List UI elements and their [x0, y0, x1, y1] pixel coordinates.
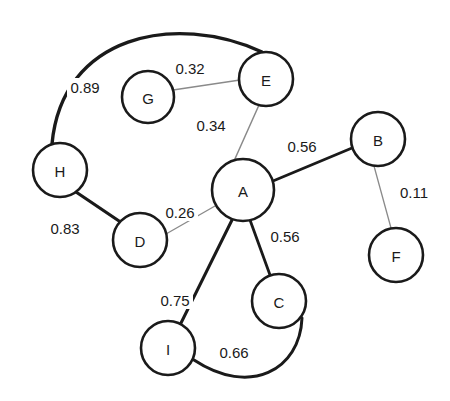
nodes-layer: ABCDEFGHI [33, 52, 423, 375]
edge-weight-label-a-c: 0.56 [270, 228, 299, 245]
node-label-c: C [274, 294, 285, 311]
edge-weight-label-a-i: 0.75 [160, 292, 189, 309]
graph-node-a: A [212, 159, 274, 221]
graph-edge-e-a [234, 105, 259, 161]
node-label-g: G [142, 90, 154, 107]
edge-weight-label-e-a: 0.34 [196, 117, 225, 134]
edge-weight-label-i-c: 0.66 [219, 344, 248, 361]
graph-node-f: F [369, 228, 423, 282]
graph-node-i: I [141, 321, 195, 375]
edge-weight-label-h-e: 0.89 [70, 79, 99, 96]
edge-weight-label-a-b: 0.56 [287, 138, 316, 155]
node-label-i: I [166, 341, 170, 358]
edge-weight-label-b-f: 0.11 [400, 184, 428, 201]
node-label-a: A [238, 183, 248, 200]
edge-weight-label-g-e: 0.32 [175, 60, 204, 77]
graph-edge-b-f [374, 166, 391, 228]
graph-edge-h-d [76, 192, 122, 223]
graph-diagram: ABCDEFGHI 0.890.830.750.660.560.560.340.… [0, 0, 450, 401]
edge-weight-label-h-d: 0.83 [50, 220, 79, 237]
edge-weight-label-d-a: 0.26 [165, 204, 194, 221]
graph-node-c: C [252, 274, 306, 328]
node-label-h: H [55, 163, 66, 180]
node-label-e: E [261, 72, 271, 89]
graph-node-d: D [113, 213, 167, 267]
node-label-d: D [135, 233, 146, 250]
graph-edge-g-e [173, 80, 240, 90]
graph-node-h: H [33, 143, 87, 197]
node-label-b: B [373, 132, 383, 149]
graph-node-e: E [239, 52, 293, 106]
graph-canvas: ABCDEFGHI 0.890.830.750.660.560.560.340.… [0, 0, 450, 401]
graph-node-g: G [122, 71, 174, 123]
node-label-f: F [391, 248, 400, 265]
graph-node-b: B [351, 112, 405, 166]
